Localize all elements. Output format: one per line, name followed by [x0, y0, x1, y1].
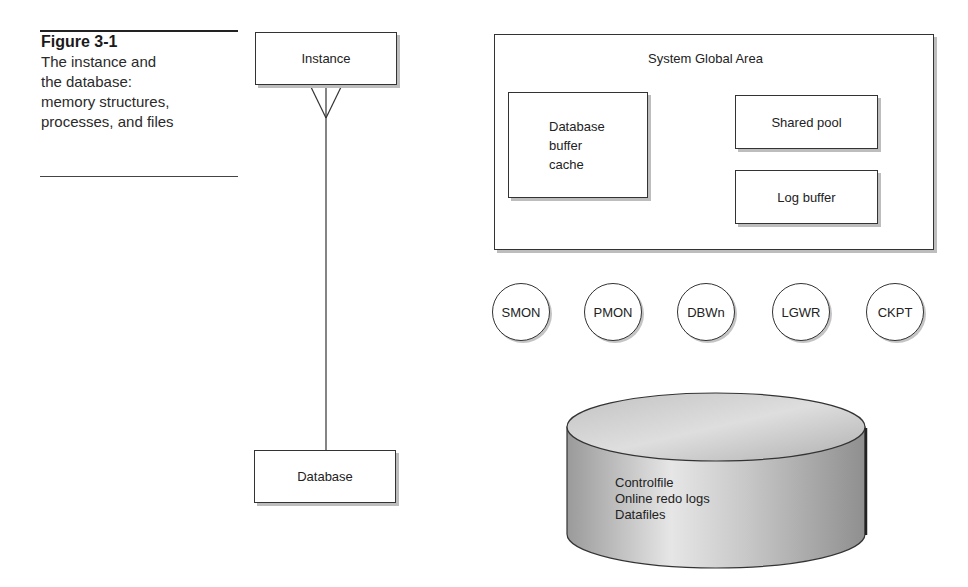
database-entity: Database — [254, 450, 396, 503]
process-smon: SMON — [492, 283, 550, 341]
file-online-redo-logs: Online redo logs — [615, 491, 710, 507]
database-files: Controlfile Online redo logs Datafiles — [615, 475, 710, 523]
buffer-cache-label: Database buffer cache — [549, 117, 605, 174]
file-controlfile: Controlfile — [615, 475, 710, 491]
process-dbwn: DBWn — [677, 283, 735, 341]
file-datafiles: Datafiles — [615, 507, 710, 523]
process-ckpt: CKPT — [866, 283, 924, 341]
database-buffer-cache: Database buffer cache — [508, 92, 648, 198]
instance-entity: Instance — [255, 32, 397, 85]
instance-label: Instance — [301, 51, 350, 66]
process-pmon: PMON — [584, 283, 642, 341]
log-buffer-label: Log buffer — [777, 190, 835, 205]
sga-title: System Global Area — [648, 51, 763, 66]
process-lgwr: LGWR — [772, 283, 830, 341]
database-label: Database — [297, 469, 353, 484]
shared-pool: Shared pool — [735, 95, 878, 149]
shared-pool-label: Shared pool — [771, 115, 841, 130]
log-buffer: Log buffer — [735, 170, 878, 224]
